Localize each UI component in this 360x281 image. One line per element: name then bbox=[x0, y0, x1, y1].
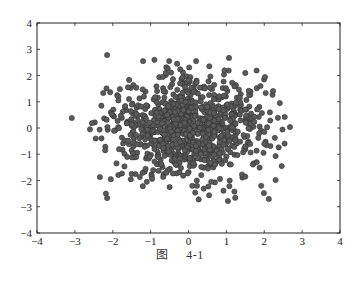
y-tick-label: −2 bbox=[20, 175, 32, 187]
y-tick-label: 2 bbox=[27, 70, 33, 82]
figure-caption: 图 4-1 bbox=[0, 245, 360, 263]
scatter-figure: −4−3−2−101234 −4−3−2−101234 图 4-1 bbox=[0, 0, 360, 281]
y-tick-label: −1 bbox=[20, 148, 32, 160]
caption-number: 4-1 bbox=[186, 248, 204, 262]
y-tick-label: 4 bbox=[27, 17, 33, 29]
y-tick-label: −3 bbox=[20, 201, 32, 213]
y-tick-label: 3 bbox=[27, 43, 33, 55]
scatter-plot: −4−3−2−101234 −4−3−2−101234 bbox=[0, 0, 360, 281]
y-tick-label: 1 bbox=[27, 96, 33, 108]
caption-prefix: 图 bbox=[156, 248, 169, 262]
data-points bbox=[69, 52, 292, 203]
y-tick-label: −4 bbox=[20, 227, 32, 239]
y-tick-label: 0 bbox=[27, 122, 33, 134]
